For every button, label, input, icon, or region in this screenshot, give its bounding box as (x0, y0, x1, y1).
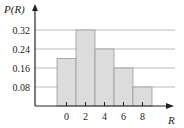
y-tick-label: 0.16 (13, 63, 31, 74)
y-ticks: 0.080.160.240.32 (13, 25, 31, 93)
bar (76, 30, 95, 106)
x-tick-label: 6 (121, 111, 126, 122)
bar (114, 68, 133, 106)
x-axis-arrow-icon (166, 103, 174, 109)
bar (57, 59, 76, 107)
y-axis-arrow-icon (32, 4, 38, 11)
y-tick-label: 0.08 (13, 82, 31, 93)
x-tick-label: 2 (83, 111, 88, 122)
x-axis-label: R (167, 114, 175, 126)
x-tick-label: 0 (64, 111, 69, 122)
x-tick-label: 8 (140, 111, 145, 122)
x-tick-label: 4 (102, 111, 107, 122)
bar (95, 49, 114, 106)
y-axis-label: P(R) (3, 3, 25, 16)
histogram-chart: 0.080.160.240.32 02468 P(R) R (0, 0, 184, 128)
y-tick-label: 0.32 (13, 25, 31, 36)
y-tick-label: 0.24 (13, 44, 31, 55)
